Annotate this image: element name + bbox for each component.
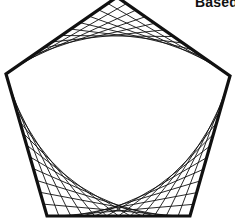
caption-text: Based bbox=[195, 0, 235, 10]
bottom-left-envelope bbox=[6, 74, 190, 216]
string-lines bbox=[6, 0, 230, 216]
top-envelope bbox=[6, 0, 230, 76]
pentagon-string-art-figure bbox=[0, 0, 235, 220]
